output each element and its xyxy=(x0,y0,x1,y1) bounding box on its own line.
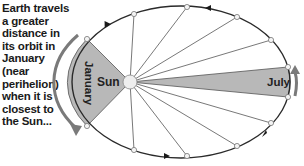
july-arrow xyxy=(295,72,297,96)
sun-icon xyxy=(123,75,137,89)
january-arrowhead-icon xyxy=(70,124,82,136)
arrowhead-icon xyxy=(205,5,211,11)
january-label: January xyxy=(83,61,95,106)
july-arrowhead-icon xyxy=(290,65,300,74)
orbit-diagram: Sun January July xyxy=(0,0,304,166)
sun-label: Sun xyxy=(97,75,120,89)
july-label: July xyxy=(267,76,291,88)
